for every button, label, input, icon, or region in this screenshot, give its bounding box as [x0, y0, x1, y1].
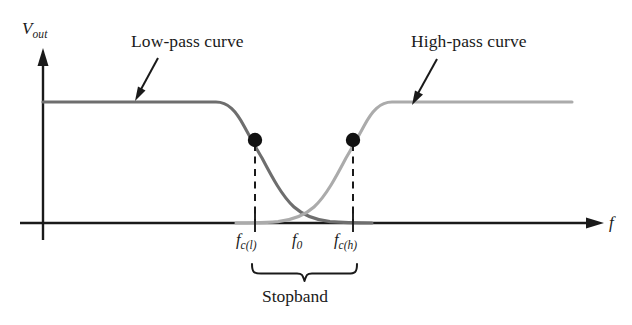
- low-pass-curve-label: Low-pass curve: [131, 33, 244, 51]
- high-pass-curve: [236, 102, 572, 223]
- tick-label-f0-subscript: 0: [297, 239, 303, 251]
- tick-label-fch-subscript: c(h): [339, 239, 358, 251]
- low-pass-pointer-head: [135, 87, 146, 102]
- high-pass-pointer-shaft: [416, 59, 437, 97]
- y-axis-arrowhead: [38, 48, 49, 66]
- cutoff-marker-group: [248, 133, 360, 147]
- low-pass-pointer-arrow: [135, 58, 158, 101]
- stopband-brace: [252, 264, 357, 281]
- high-pass-pointer-arrow: [412, 59, 437, 105]
- y-axis-label-subscript: out: [32, 28, 47, 40]
- tick-label-fch: fc(h): [334, 232, 357, 251]
- plot-canvas: [0, 0, 632, 325]
- tick-label-fcl-subscript: c(l): [241, 239, 257, 251]
- tick-label-fcl: fc(l): [236, 232, 257, 251]
- cutoff-high-marker: [346, 133, 360, 147]
- x-axis-label: f: [609, 214, 614, 231]
- cutoff-dropline-group: [255, 144, 353, 221]
- cutoff-low-marker: [248, 133, 262, 147]
- low-pass-pointer-shaft: [139, 58, 158, 93]
- stopband-label: Stopband: [262, 288, 328, 306]
- band-stop-filter-response-figure: Low-pass curve High-pass curve Stopband …: [0, 0, 632, 325]
- y-axis-label-main: V: [22, 19, 32, 38]
- high-pass-curve-label: High-pass curve: [411, 33, 527, 51]
- x-axis-arrowhead: [586, 218, 604, 229]
- y-axis-label: Vout: [22, 20, 48, 40]
- tick-label-f0: f0: [292, 232, 302, 251]
- axes-group: [20, 48, 604, 240]
- low-pass-curve: [43, 102, 372, 223]
